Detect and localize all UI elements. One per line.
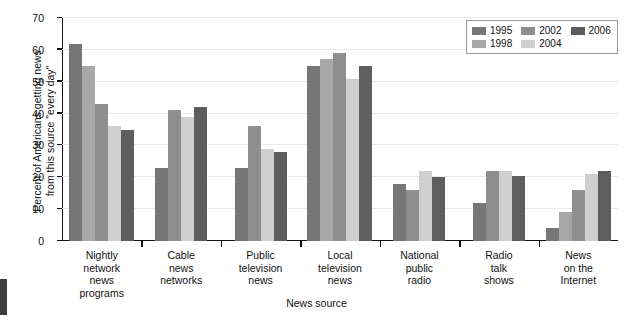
bar [320,59,333,241]
bar-group [62,18,141,241]
legend-item: 1995 [472,25,512,36]
legend-label: 2004 [539,38,561,49]
y-axis-tick-label: 60 [32,44,44,56]
bar-group-bars [221,18,300,241]
x-axis-tick [539,241,540,247]
bar [82,66,95,241]
bar [585,174,598,241]
bar [359,66,372,241]
bar [248,126,261,241]
bar [69,44,82,242]
legend: 19952002200619982004 [466,20,618,54]
x-axis-title: News source [0,297,633,309]
bar-group-bars [141,18,220,241]
x-axis-category-label: National public radio [380,249,459,287]
bar [307,66,320,241]
bar [168,110,181,241]
x-axis-category-label: Radio talk shows [459,249,538,287]
bar-group-bars [300,18,379,241]
y-axis-tick-label: 40 [32,108,44,120]
bar [473,203,486,241]
bar [559,212,572,241]
legend-label: 2006 [589,25,611,36]
legend-swatch [472,40,486,48]
legend-label: 1995 [490,25,512,36]
bar-group-bars [380,18,459,241]
x-axis-tick [141,241,142,247]
y-axis-tick-label: 50 [32,76,44,88]
legend-item: 1998 [472,38,512,49]
legend-item: 2006 [571,25,611,36]
bar [155,168,168,241]
x-axis-tick [380,241,381,247]
bar [333,53,346,241]
y-axis-tick-label: 20 [32,171,44,183]
bar-chart: Percent of Americans getting news from t… [0,0,633,323]
x-axis-category-label: Local television news [300,249,379,287]
bar [181,117,194,241]
legend-swatch [521,40,535,48]
bar [346,79,359,241]
bar [499,171,512,241]
legend-swatch [571,27,585,35]
y-axis-tick-label: 10 [32,203,44,215]
legend-swatch [521,27,535,35]
x-axis-category-label: Nightly network news programs [62,249,141,299]
x-axis-category-label: Cable news networks [141,249,220,287]
bar [261,149,274,241]
x-axis-category-label: News on the Internet [539,249,618,287]
y-axis-tick-label: 70 [32,12,44,24]
bar [95,104,108,241]
bar-group [300,18,379,241]
bar [512,176,525,241]
legend-label: 2002 [539,25,561,36]
bar [194,107,207,241]
x-axis-tick [459,241,460,247]
y-axis-tick-label: 30 [32,139,44,151]
legend-label: 1998 [490,38,512,49]
x-axis-tick [221,241,222,247]
bar [393,184,406,241]
bar [486,171,499,241]
bar [572,190,585,241]
x-axis-tick [300,241,301,247]
bar [108,126,121,241]
y-axis-tick-label: 0 [38,235,44,247]
bar [235,168,248,241]
legend-swatch [472,27,486,35]
bar-group-bars [62,18,141,241]
legend-item: 2004 [521,38,561,49]
bar [274,152,287,241]
bar-group [221,18,300,241]
x-axis-category-label: Public television news [221,249,300,287]
bar [432,177,445,241]
bar [598,171,611,241]
bar-group [380,18,459,241]
bar-group [141,18,220,241]
bar [546,228,559,241]
bar [419,171,432,241]
legend-item: 2002 [521,25,561,36]
bar [406,190,419,241]
bar [121,130,134,242]
